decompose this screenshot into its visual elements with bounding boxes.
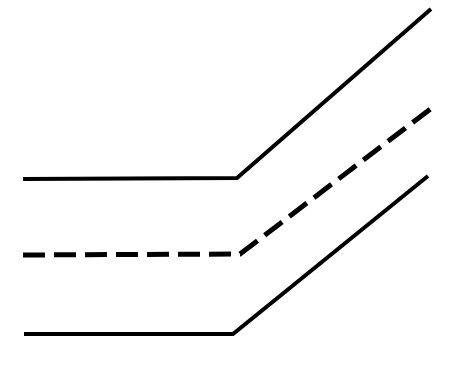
chart-figure xyxy=(0,0,456,367)
plot-area xyxy=(0,0,456,367)
chart-background xyxy=(0,0,456,367)
